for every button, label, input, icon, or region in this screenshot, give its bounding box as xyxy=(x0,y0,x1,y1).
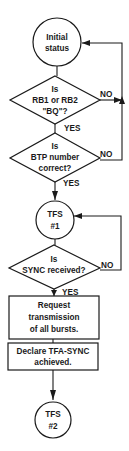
tfs2-line2: #2 xyxy=(48,422,58,431)
request-line2: transmission xyxy=(29,313,80,322)
node-decision-sync: Is SYNC received? xyxy=(9,245,100,289)
tfs1-line1: TFS xyxy=(47,210,63,219)
tfs1-line2: #1 xyxy=(50,222,60,231)
declare-line1: Declare TFA-SYNC xyxy=(17,347,90,356)
decision-rb-line3: "BQ"? xyxy=(42,107,67,116)
arrow-into-tfs2-icon xyxy=(50,390,56,400)
initial-status-line1: Initial xyxy=(46,33,67,42)
node-tfs2: TFS #2 xyxy=(35,402,71,438)
arrow-into-initial-icon xyxy=(82,40,90,46)
initial-status-line2: status xyxy=(45,44,70,53)
decision-btp-line1: Is xyxy=(52,142,59,151)
node-declare-tfa-sync: Declare TFA-SYNC achieved. xyxy=(8,343,98,370)
label-rb-yes: YES xyxy=(64,124,81,133)
request-line1: Request xyxy=(38,301,71,310)
label-sync-no: NO xyxy=(101,261,114,270)
node-decision-rb-bq: Is RB1 or RB2 "BQ"? xyxy=(10,76,100,124)
label-btp-no: NO xyxy=(100,150,113,159)
label-btp-yes: YES xyxy=(63,179,80,188)
node-initial-status: Initial status xyxy=(33,18,81,66)
arrow-into-request-icon xyxy=(51,290,57,296)
arrow-into-tfs1-loop-icon xyxy=(74,213,82,219)
decision-sync-line2: SYNC received? xyxy=(22,266,85,275)
node-tfs1: TFS #1 xyxy=(36,201,74,239)
decision-btp-line2: BTP number xyxy=(31,153,80,162)
label-rb-no: NO xyxy=(100,90,113,99)
request-line3: of all bursts. xyxy=(30,325,79,334)
arrow-into-tfs1-icon xyxy=(52,191,58,200)
flowchart-canvas: Initial status Is RB1 or RB2 "BQ"? NO YE… xyxy=(0,0,129,451)
decision-btp-line3: correct? xyxy=(39,164,72,173)
decision-sync-line1: Is xyxy=(51,255,58,264)
decision-rb-line1: Is xyxy=(52,85,59,94)
decision-rb-line2: RB1 or RB2 xyxy=(32,96,78,105)
node-request-transmission: Request transmission of all bursts. xyxy=(9,296,99,339)
declare-line2: achieved. xyxy=(34,358,71,367)
node-decision-btp: Is BTP number correct? xyxy=(10,133,100,182)
tfs2-line1: TFS xyxy=(45,410,61,419)
